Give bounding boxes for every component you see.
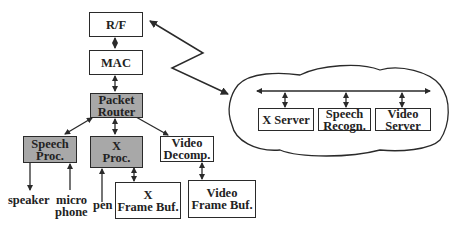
rf-label: R/F <box>106 19 126 31</box>
speech-recogn-label-1: Speech <box>326 108 364 120</box>
speaker-label: speaker <box>8 194 50 206</box>
mac-label: MAC <box>101 57 131 69</box>
speech-proc-label-1: Speech <box>31 138 69 150</box>
x-frame-buf-label-2: Frame Buf. <box>117 201 178 213</box>
x-frame-buf-label-1: X <box>143 189 152 201</box>
pen-label: pen <box>93 199 112 211</box>
video-frame-buf-box: Video Frame Buf. <box>188 180 256 218</box>
video-server-box: Video Server <box>375 108 431 131</box>
packet-router-label-2: Router <box>98 106 136 118</box>
x-frame-buf-box: X Frame Buf. <box>115 182 181 219</box>
wireless-link <box>150 21 228 94</box>
x-proc-label-2: Proc. <box>103 152 131 164</box>
microphone-label-2: phone <box>55 206 88 218</box>
mac-box: MAC <box>89 50 143 75</box>
speech-recogn-label-2: Recogn. <box>323 120 366 132</box>
speech-recogn-box: Speech Recogn. <box>318 108 371 131</box>
video-decomp-box: Video Decomp. <box>160 136 214 162</box>
video-frame-buf-label-2: Frame Buf. <box>191 199 252 211</box>
diagram-canvas: R/F MAC Packet Router Speech Proc. X Pro… <box>0 0 457 232</box>
packet-router-box: Packet Router <box>90 93 143 118</box>
router-speech-link <box>65 118 92 134</box>
speech-proc-label-2: Proc. <box>36 150 64 162</box>
x-server-box: X Server <box>258 108 314 131</box>
packet-router-label-1: Packet <box>98 94 134 106</box>
router-video-link <box>136 117 168 135</box>
video-server-label-1: Video <box>388 108 419 120</box>
x-proc-box: X Proc. <box>90 136 143 168</box>
x-server-label: X Server <box>262 114 310 126</box>
video-decomp-label-2: Decomp. <box>164 149 211 161</box>
speech-proc-box: Speech Proc. <box>23 136 77 163</box>
video-server-label-2: Server <box>385 120 420 132</box>
rf-box: R/F <box>89 12 143 37</box>
